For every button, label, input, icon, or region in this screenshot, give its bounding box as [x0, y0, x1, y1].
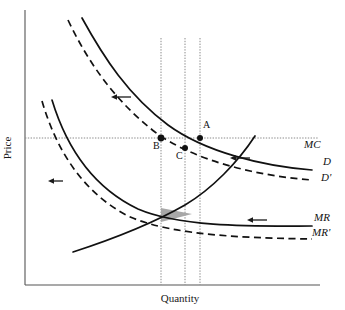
axes-group [25, 10, 320, 285]
point-label-a: A [203, 119, 210, 130]
shift-arrow-mr-left-icon [48, 178, 63, 183]
point-marker-a [197, 135, 203, 141]
economics-diagram-figure: Price Quantity MC D D' MR MR' A B C [0, 0, 345, 310]
shift-arrows-group [48, 94, 267, 222]
plot-area [0, 0, 345, 310]
curve-label-d-prime: D' [321, 171, 331, 183]
curve-label-mr-prime: MR' [312, 226, 330, 238]
point-label-c: C [176, 150, 183, 161]
demand-curve-d-prime [68, 20, 312, 180]
guide-lines-group [25, 38, 318, 285]
y-axis-title: Price [1, 128, 13, 168]
curve-label-mr: MR [314, 211, 330, 223]
point-markers-group [158, 135, 203, 151]
shift-arrow-demand-upper-icon [111, 94, 131, 99]
demand-curve-d [82, 18, 312, 170]
curve-label-mc: MC [304, 138, 321, 150]
point-label-b: B [153, 140, 160, 151]
x-axis-title: Quantity [140, 292, 220, 304]
marginal-revenue-curve-mr-prime [42, 101, 312, 239]
shift-arrow-mr-right-icon [247, 217, 267, 222]
curve-label-d: D [323, 155, 331, 167]
